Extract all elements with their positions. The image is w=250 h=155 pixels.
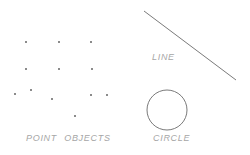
point-objects-group [14,41,108,117]
point-object [51,98,53,100]
point-object [91,68,93,70]
circle-label: CIRCLE [153,133,191,143]
point-object [14,93,16,95]
point-object [90,41,92,43]
point-object [90,94,92,96]
point-object [74,115,76,117]
point-object [25,68,27,70]
point-object [106,94,108,96]
line-group [144,11,236,80]
cad-diagram: POINT OBJECTS LINE CIRCLE [0,0,250,155]
circle-object [147,90,187,130]
point-object [58,41,60,43]
point-object [25,41,27,43]
line-label: LINE [152,52,175,62]
circle-group [147,90,187,130]
point-object [30,89,32,91]
point-object [58,68,60,70]
line-object [144,11,236,80]
drawing-canvas: POINT OBJECTS LINE CIRCLE [0,0,250,155]
point-objects-label: POINT OBJECTS [26,133,111,143]
